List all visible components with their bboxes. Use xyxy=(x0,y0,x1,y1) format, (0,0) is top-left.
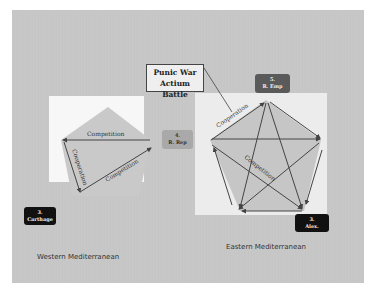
region-label-east: Eastern Mediterranean xyxy=(226,243,306,251)
node-label: Carthage xyxy=(24,216,56,223)
node-alexandria: 3. Alex. xyxy=(295,214,329,232)
callout-line-1: Punic War xyxy=(147,67,203,78)
node-carthage: 3. Carthage xyxy=(24,207,56,225)
region-label-west: Western Mediterranean xyxy=(37,253,119,261)
node-roman-republic: 4. R. Rep xyxy=(162,130,193,149)
node-rank: 4. xyxy=(162,132,193,139)
node-rank: 5. xyxy=(255,76,290,83)
event-callout: Punic War Actium Battle xyxy=(146,64,204,92)
node-rank: 3. xyxy=(295,216,329,223)
node-label: R. Emp xyxy=(255,83,290,90)
callout-line-2: Actium Battle xyxy=(147,78,203,100)
node-label: R. Rep xyxy=(162,139,193,146)
node-label: Alex. xyxy=(295,223,329,230)
node-rank: 3. xyxy=(24,209,56,216)
node-roman-empire: 5. R. Emp xyxy=(255,74,290,93)
edge-label-west-top: Competition xyxy=(87,130,125,138)
